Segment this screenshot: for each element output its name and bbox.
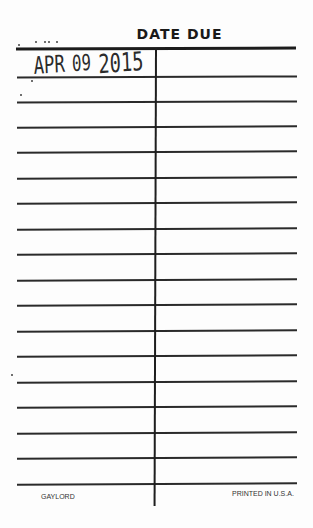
row-rule [17, 125, 297, 128]
card-title: DATE DUE [0, 26, 313, 42]
row-rule [17, 431, 297, 434]
stamp-month: APR [33, 50, 65, 80]
ink-speck [20, 94, 22, 96]
stamp-day: 09 [72, 50, 92, 76]
row-rule [17, 405, 297, 408]
footer-brand: GAYLORD [41, 493, 75, 500]
ink-speck [35, 41, 37, 43]
ink-speck [31, 80, 33, 82]
date-due-card: DATE DUE APR092015 GAYLORD PRINTED IN U.… [0, 0, 313, 528]
row-rule [17, 150, 297, 153]
ink-speck [48, 41, 50, 43]
ink-speck [11, 374, 13, 376]
row-rule [17, 176, 297, 179]
row-rule [17, 252, 297, 255]
ink-speck [18, 44, 20, 46]
row-rule [17, 456, 297, 459]
footer-origin: PRINTED IN U.S.A. [232, 490, 294, 497]
row-rule [17, 100, 297, 103]
ink-speck [44, 41, 46, 43]
column-divider [154, 48, 157, 506]
row-rule [17, 278, 297, 281]
stamp-year: 2015 [98, 46, 144, 79]
row-rule [17, 227, 297, 230]
row-rule [17, 482, 297, 485]
row-rule [17, 329, 297, 332]
row-rule [17, 380, 297, 383]
row-rule [17, 354, 297, 357]
row-rule [17, 303, 297, 306]
row-rule [17, 201, 297, 204]
ink-speck [56, 41, 58, 43]
